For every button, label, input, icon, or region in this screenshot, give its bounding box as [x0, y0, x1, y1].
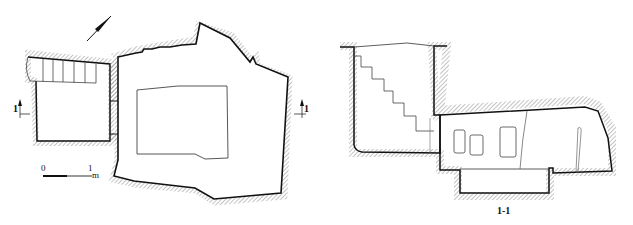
entrance-outline [28, 57, 110, 141]
section-cut-left-label: 1 [13, 103, 18, 114]
section-view [340, 43, 612, 196]
section-stairs [354, 56, 434, 131]
section-cut-left [18, 99, 30, 118]
section-label: 1-1 [497, 205, 510, 216]
scale-bar-start-label: 0 [41, 163, 46, 173]
section-cut-right-label: 1 [304, 103, 309, 114]
niche-2 [470, 135, 483, 155]
north-arrow-icon [87, 16, 111, 41]
niche-3 [500, 127, 516, 157]
tomb-drawing [0, 0, 633, 225]
niche-1 [454, 130, 465, 153]
plan-view [18, 16, 306, 202]
chamber-section-outline [440, 107, 612, 193]
scale-bar-unit-label: m [92, 170, 99, 180]
